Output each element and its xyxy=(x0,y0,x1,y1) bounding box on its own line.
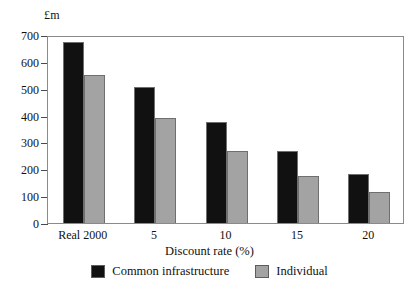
legend-swatch-icon xyxy=(91,265,105,278)
y-axis-unit-label: £m xyxy=(44,8,60,22)
bar xyxy=(369,192,390,223)
bar-group xyxy=(277,37,319,223)
x-axis-tick-label: 10 xyxy=(220,228,232,242)
bar xyxy=(206,122,227,223)
bar-group xyxy=(348,37,390,223)
x-axis-tick-label: 5 xyxy=(151,228,157,242)
legend-label: Individual xyxy=(276,264,327,278)
x-axis-title: Discount rate (%) xyxy=(0,244,419,259)
y-axis-tick-label: 300 xyxy=(3,137,39,149)
bar xyxy=(84,75,105,223)
bar xyxy=(155,118,176,223)
y-axis-tick-label: 500 xyxy=(3,84,39,96)
bar-chart-figure: £m 0100200300400500600700 Real 200051015… xyxy=(0,0,419,296)
bar xyxy=(227,151,248,224)
plot-frame xyxy=(47,36,404,224)
bar xyxy=(277,151,298,224)
x-axis-tick-label: 20 xyxy=(362,228,374,242)
legend-swatch-icon xyxy=(255,265,269,278)
y-axis-tick-label: 0 xyxy=(3,218,39,230)
bar xyxy=(348,174,369,223)
bar xyxy=(134,87,155,223)
chart-legend: Common infrastructureIndividual xyxy=(0,264,419,278)
plot-area xyxy=(48,37,403,223)
bar xyxy=(63,42,84,223)
x-axis-tick-label: 15 xyxy=(291,228,303,242)
bar xyxy=(298,176,319,223)
bar-group xyxy=(134,37,176,223)
y-axis-tick xyxy=(41,224,48,225)
legend-label: Common infrastructure xyxy=(112,264,229,278)
y-axis-tick-label: 100 xyxy=(3,191,39,203)
y-axis-tick-label: 600 xyxy=(3,57,39,69)
y-axis-tick-label: 400 xyxy=(3,111,39,123)
bar-group xyxy=(206,37,248,223)
legend-item: Individual xyxy=(255,264,327,278)
y-axis-tick-label: 700 xyxy=(3,30,39,42)
legend-item: Common infrastructure xyxy=(91,264,229,278)
y-axis-tick-label: 200 xyxy=(3,164,39,176)
x-axis-tick-label: Real 2000 xyxy=(58,228,107,242)
bar-group xyxy=(63,37,105,223)
